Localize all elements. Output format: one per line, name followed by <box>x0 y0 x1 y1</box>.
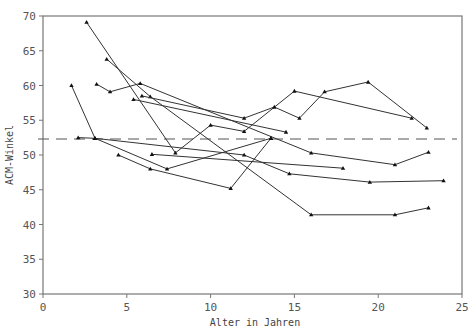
y-tick-label: 60 <box>23 80 36 93</box>
y-axis-title: ACM-Winkel <box>4 125 15 185</box>
triangle-marker-icon <box>116 153 120 157</box>
y-tick-label: 55 <box>23 114 36 127</box>
triangle-marker-icon <box>140 94 144 98</box>
data-series <box>140 80 429 130</box>
x-tick-label: 15 <box>288 301 301 314</box>
triangle-marker-icon <box>138 81 142 85</box>
x-tick-label: 20 <box>372 301 385 314</box>
triangle-marker-icon <box>292 89 296 93</box>
x-tick-label: 10 <box>204 301 217 314</box>
y-tick-label: 35 <box>23 253 36 266</box>
series-line <box>118 138 271 188</box>
series-line <box>87 22 412 153</box>
data-series <box>94 81 430 166</box>
triangle-marker-icon <box>366 80 370 84</box>
series-line <box>72 86 444 183</box>
triangle-marker-icon <box>208 123 212 127</box>
triangle-marker-icon <box>131 97 135 101</box>
x-axis-title: Alter in Jahren <box>210 317 300 328</box>
triangle-marker-icon <box>426 150 430 154</box>
triangle-marker-icon <box>69 83 73 87</box>
y-tick-label: 40 <box>23 219 36 232</box>
data-series <box>84 20 414 154</box>
x-tick-label: 5 <box>123 301 130 314</box>
x-tick-label: 25 <box>455 301 468 314</box>
y-tick-label: 30 <box>23 288 36 301</box>
x-tick-label: 0 <box>40 301 47 314</box>
series-line <box>97 83 429 164</box>
series-group <box>69 20 445 216</box>
data-series <box>104 57 430 216</box>
line-chart: 3035404550556065700510152025 Alter in Ja… <box>0 0 473 332</box>
y-tick-label: 50 <box>23 149 36 162</box>
y-tick-label: 65 <box>23 45 36 58</box>
series-line <box>142 82 427 128</box>
chart-container: 3035404550556065700510152025 Alter in Ja… <box>0 0 473 332</box>
series-line <box>107 59 429 215</box>
plot-frame <box>43 16 462 294</box>
triangle-marker-icon <box>94 82 98 86</box>
triangle-marker-icon <box>104 57 108 61</box>
y-tick-label: 45 <box>23 184 36 197</box>
y-tick-label: 70 <box>23 10 36 23</box>
triangle-marker-icon <box>426 206 430 210</box>
triangle-marker-icon <box>84 20 88 24</box>
